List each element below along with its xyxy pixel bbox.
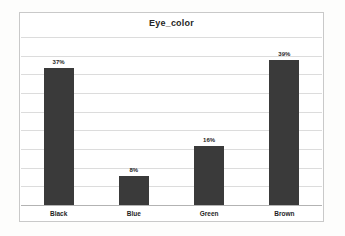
bar-column-black: 37%	[21, 38, 96, 206]
x-label-brown: Brown	[247, 209, 322, 218]
bar-column-brown: 39%	[247, 38, 322, 206]
bar-black	[44, 68, 74, 206]
chart-frame: Eye_color 37%8%16%39% BlackBlueGreenBrow…	[19, 12, 324, 222]
x-label-green: Green	[172, 209, 247, 218]
bar-green	[194, 146, 224, 206]
bars-container: 37%8%16%39%	[21, 38, 322, 206]
bar-column-green: 16%	[172, 38, 247, 206]
chart-title: Eye_color	[20, 18, 323, 28]
bar-value-label: 8%	[130, 167, 139, 173]
bar-column-blue: 8%	[96, 38, 171, 206]
scanned-page: Eye_color 37%8%16%39% BlackBlueGreenBrow…	[0, 0, 345, 236]
x-axis-labels: BlackBlueGreenBrown	[21, 206, 322, 221]
bar-value-label: 39%	[278, 51, 290, 57]
bar-value-label: 37%	[53, 59, 65, 65]
x-label-blue: Blue	[96, 209, 171, 218]
bar-blue	[119, 176, 149, 206]
bar-brown	[269, 60, 299, 206]
plot-area: 37%8%16%39%	[21, 38, 322, 206]
x-label-black: Black	[21, 209, 96, 218]
bar-value-label: 16%	[203, 137, 215, 143]
